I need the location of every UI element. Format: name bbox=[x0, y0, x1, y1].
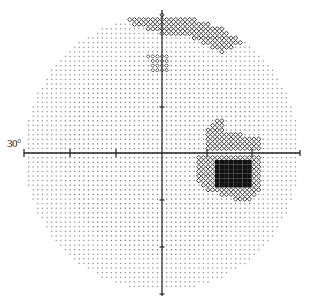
visual-field-plot bbox=[0, 0, 309, 305]
eccentricity-label: 30° bbox=[7, 137, 21, 149]
axes bbox=[24, 10, 300, 296]
grayscale-dot-field bbox=[23, 13, 296, 292]
